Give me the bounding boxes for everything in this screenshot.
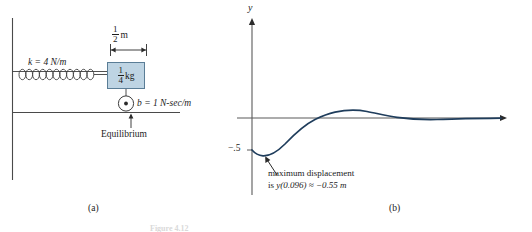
spring-constant-label: k = 4 N/m (28, 58, 66, 68)
equilibrium-text: Equilibrium (101, 129, 147, 139)
displacement-unit: m (121, 30, 128, 40)
figure-caption-text: Figure 4.12 (150, 224, 189, 232)
panel-a-caption-text: (a) (88, 203, 99, 213)
panel-b-plot: y −.5 maximum displacement is y(0.096) ≈… (215, 0, 532, 232)
y-axis-label-text: y (248, 2, 252, 13)
panel-a-caption: (a) (88, 203, 99, 213)
mass-label: 1 4 kg (118, 66, 135, 85)
panel-b-caption-text: (b) (389, 203, 400, 213)
mass-numerator: 1 (118, 66, 125, 75)
damping-label: b = 1 N-sec/m (137, 99, 191, 109)
spring-coil-icon (13, 69, 109, 79)
displacement-denominator: 2 (112, 34, 119, 44)
mass-denominator: 4 (118, 75, 125, 85)
damping-text: b = 1 N-sec/m (137, 98, 191, 108)
y-axis-label: y (248, 3, 252, 13)
panel-b-svg (215, 0, 532, 232)
displacement-label: 1 2 m (112, 25, 128, 44)
y-axis-arrow-icon (249, 18, 255, 195)
equilibrium-label: Equilibrium (101, 130, 147, 140)
mass-block-icon: 1 4 kg (107, 62, 145, 89)
panel-b-caption: (b) (389, 203, 400, 213)
figure-caption-fragment: Figure 4.12 (150, 224, 189, 232)
y-tick-label-text: −.5 (228, 143, 240, 153)
mass-fraction: 1 4 (118, 66, 125, 85)
equilibrium-arrow-icon (129, 114, 134, 128)
displacement-fraction: 1 2 (112, 25, 119, 44)
dimension-arrow-icon (111, 44, 147, 56)
annotation-line-2: is y(0.096) ≈ −0.55 m (268, 180, 354, 192)
annotation-line-2-math: y(0.096) ≈ −0.55 m (276, 180, 346, 190)
displacement-numerator: 1 (112, 25, 119, 34)
figure-root: | --> 1 2 m k = 4 N/m (0, 0, 532, 232)
damper-circle-icon (118, 96, 133, 111)
mass-unit: kg (125, 71, 135, 81)
max-displacement-annotation: maximum displacement is y(0.096) ≈ −0.55… (268, 168, 354, 191)
y-tick-label: −.5 (228, 144, 240, 154)
annotation-line-1: maximum displacement (268, 168, 354, 180)
displacement-curve-icon (252, 110, 501, 156)
spring-constant-text: k = 4 N/m (28, 57, 66, 67)
